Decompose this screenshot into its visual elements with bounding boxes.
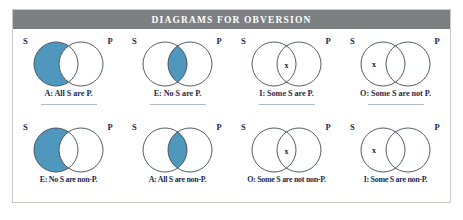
diagram-cell-i-some-s-are-p: x S P I: Some S are P. xyxy=(232,29,341,115)
figure-frame: DIAGRAMS FOR OBVERSION xyxy=(12,9,451,203)
proposition-label: I: Some S are non-P. xyxy=(341,175,450,184)
label-s: S xyxy=(132,122,137,132)
venn-diagram: S P xyxy=(14,30,123,92)
proposition-label: E: No S are P. xyxy=(123,89,232,98)
label-p: P xyxy=(434,36,439,46)
diagram-cell-o-some-s-are-not-p: x S P O: Some S are not P. xyxy=(341,29,450,115)
label-p: P xyxy=(434,122,439,132)
label-p: P xyxy=(107,122,112,132)
x-mark-left-crescent: x xyxy=(372,60,376,69)
venn-diagram: S P xyxy=(123,116,232,178)
x-mark-lens: x xyxy=(285,61,289,70)
venn-diagram: x S P xyxy=(232,30,341,92)
label-p: P xyxy=(325,122,330,132)
venn-diagram: S P xyxy=(123,30,232,92)
proposition-label: A: All S are P. xyxy=(14,89,123,98)
proposition-label: I: Some S are P. xyxy=(232,89,341,98)
figure-header-bar: DIAGRAMS FOR OBVERSION xyxy=(13,10,450,29)
label-s: S xyxy=(23,36,28,46)
diagram-cell-a-all-s-are-non-p: S P A: All S are non-P. xyxy=(123,115,232,201)
label-s: S xyxy=(241,122,246,132)
cell-divider xyxy=(150,104,206,105)
diagram-cell-i-some-s-are-non-p: x S P I: Some S are non-P. xyxy=(341,115,450,201)
label-p: P xyxy=(216,122,221,132)
cell-divider xyxy=(41,104,97,105)
cell-divider xyxy=(259,104,315,105)
x-mark-left-crescent: x xyxy=(372,146,376,155)
label-p: P xyxy=(216,36,221,46)
label-s: S xyxy=(23,122,28,132)
venn-diagram: x S P xyxy=(232,116,341,178)
venn-diagram: S P xyxy=(14,116,123,178)
figure-title: DIAGRAMS FOR OBVERSION xyxy=(152,15,312,25)
label-s: S xyxy=(350,122,355,132)
cell-divider xyxy=(368,104,424,105)
label-p: P xyxy=(107,36,112,46)
label-s: S xyxy=(132,36,137,46)
label-p: P xyxy=(325,36,330,46)
diagram-row-obverted: S P E: No S are non-P. xyxy=(13,115,450,201)
diagram-grid: S P A: All S are P. xyxy=(13,29,450,202)
diagram-cell-e-no-s-are-non-p: S P E: No S are non-P. xyxy=(14,115,123,201)
proposition-label: E: No S are non-P. xyxy=(14,175,123,184)
venn-diagram: x S P xyxy=(341,116,450,178)
x-mark-lens: x xyxy=(285,147,289,156)
diagram-cell-e-no-s-are-p: S P E: No S are P. xyxy=(123,29,232,115)
diagram-cell-a-all-s-are-p: S P A: All S are P. xyxy=(14,29,123,115)
proposition-label: A: All S are non-P. xyxy=(123,175,232,184)
proposition-label: O: Some S are not P. xyxy=(341,89,450,98)
proposition-label: O: Some S are not non-P. xyxy=(232,175,341,184)
label-s: S xyxy=(350,36,355,46)
obversion-diagram-figure: DIAGRAMS FOR OBVERSION xyxy=(0,0,463,220)
diagram-cell-o-some-s-are-not-non-p: x S P O: Some S are not non-P. xyxy=(232,115,341,201)
diagram-row-original: S P A: All S are P. xyxy=(13,29,450,115)
label-s: S xyxy=(241,36,246,46)
venn-diagram: x S P xyxy=(341,30,450,92)
